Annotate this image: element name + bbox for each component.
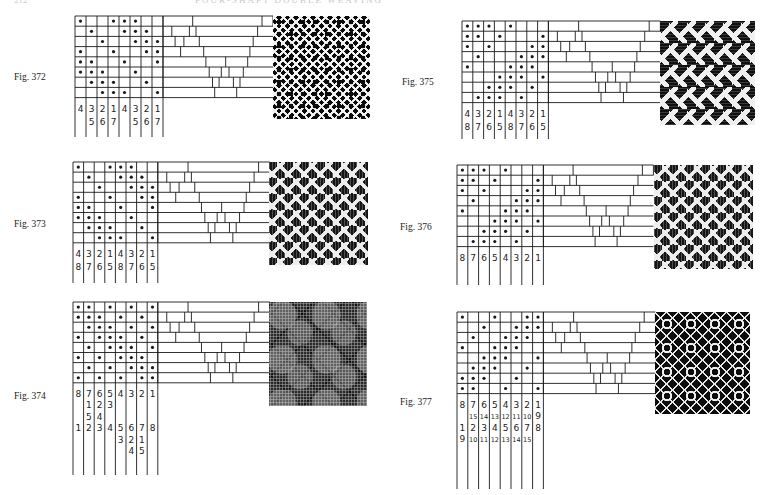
draft-dot	[119, 176, 122, 179]
draft-dot	[79, 20, 82, 23]
draft-number: 15	[523, 436, 531, 444]
draft-dot	[130, 186, 133, 189]
draft-dot	[477, 25, 480, 28]
draft-number: 15	[469, 413, 477, 421]
draft-dot	[477, 35, 480, 38]
draft-number: 4	[118, 389, 124, 399]
draft-dot	[87, 346, 90, 349]
draft-dot	[130, 346, 133, 349]
draft-dot	[482, 326, 485, 329]
draft-dot	[515, 220, 518, 223]
draft-dot	[140, 336, 143, 339]
draft-dot	[130, 216, 133, 219]
draft-dot	[151, 305, 154, 308]
draft-dot	[130, 176, 133, 179]
draft-dot	[461, 387, 464, 390]
draft-number: 4	[492, 423, 498, 433]
draft-dot	[151, 196, 154, 199]
woven-fabric-sample	[655, 312, 750, 414]
draft-dot	[79, 60, 82, 63]
draft-dot	[498, 86, 501, 89]
draft-dot	[487, 96, 490, 99]
draft-number: 10	[523, 413, 531, 421]
page-number: 212	[14, 0, 28, 5]
draft-dot	[87, 216, 90, 219]
draft-number: 3	[475, 109, 481, 119]
draft-dot	[493, 179, 496, 182]
draft-dot	[77, 165, 80, 168]
draft-dot	[151, 236, 154, 239]
draft-number: 7	[86, 262, 92, 272]
draft-dot	[504, 336, 507, 339]
draft-dot	[112, 81, 115, 84]
draft-dot	[151, 206, 154, 209]
figure-label: Fig. 373	[14, 219, 46, 229]
draft-number: 8	[118, 262, 124, 272]
draft-dot	[482, 240, 485, 243]
draft-dot	[541, 35, 544, 38]
draft-dot	[130, 356, 133, 359]
draft-number: 6	[481, 400, 487, 410]
draft-number: 12	[501, 413, 509, 421]
draft-dot	[498, 35, 501, 38]
draft-number: 4	[118, 249, 124, 259]
draft-dot	[134, 71, 137, 74]
draft-number: 4	[508, 109, 514, 119]
draft-number: 3	[86, 249, 92, 259]
draft-dot	[112, 91, 115, 94]
draft-dot	[109, 336, 112, 339]
draft-dot	[472, 336, 475, 339]
draft-number: 1	[107, 249, 113, 259]
draft-dot	[101, 71, 104, 74]
draft-dot	[77, 316, 80, 319]
draft-dot	[87, 206, 90, 209]
draft-dot	[531, 55, 534, 58]
draft-dot	[119, 376, 122, 379]
draft-number: 2	[139, 389, 145, 399]
draft-dot	[482, 377, 485, 380]
draft-number: 6	[139, 262, 145, 272]
draft-dot	[109, 366, 112, 369]
draft-dot	[536, 179, 539, 182]
draft-dot	[498, 76, 501, 79]
draft-dot	[493, 356, 496, 359]
draft-dot	[536, 387, 539, 390]
draft-dot	[134, 40, 137, 43]
draft-dot	[98, 356, 101, 359]
draft-dot	[472, 367, 475, 370]
draft-number: 6	[481, 253, 487, 263]
draft-number: 3	[128, 389, 134, 399]
draft-dot	[123, 20, 126, 23]
weaving-draft: 87654321	[457, 165, 655, 287]
draft-dot	[87, 226, 90, 229]
draft-number: 7	[470, 253, 476, 263]
draft-number: 4	[97, 412, 103, 422]
draft-dot	[461, 316, 464, 319]
draft-number: 3	[107, 400, 113, 410]
draft-dot	[520, 76, 523, 79]
draft-dot	[482, 356, 485, 359]
draft-dot	[526, 199, 529, 202]
draft-dot	[526, 336, 529, 339]
draft-dot	[520, 96, 523, 99]
draft-number: 5	[107, 389, 113, 399]
draft-dot	[515, 209, 518, 212]
draft-number: 5	[86, 412, 92, 422]
running-header: FOUR-SHAFT DOUBLE WEAVING	[195, 0, 383, 5]
draft-dot	[109, 305, 112, 308]
draft-dot	[156, 40, 159, 43]
draft-dot	[130, 305, 133, 308]
draft-number: 1	[150, 249, 156, 259]
draft-dot	[140, 186, 143, 189]
draft-number: 6	[486, 122, 492, 132]
draft-dot	[466, 65, 469, 68]
draft-number: 5	[492, 400, 498, 410]
draft-dot	[515, 199, 518, 202]
draft-dot	[509, 65, 512, 68]
draft-number: 4	[122, 104, 128, 114]
draft-number: 4	[465, 109, 471, 119]
draft-number: 7	[519, 122, 525, 132]
draft-dot	[526, 230, 529, 233]
draft-dot	[77, 376, 80, 379]
draft-dot	[466, 25, 469, 28]
